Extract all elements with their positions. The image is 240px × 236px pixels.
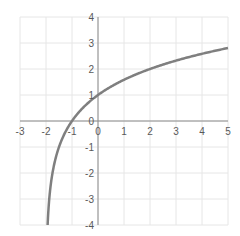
x-axis-tick-labels: -3-2-1012345: [16, 126, 232, 137]
y-tick-label: -4: [85, 220, 94, 231]
y-tick-label: -1: [85, 142, 94, 153]
x-tick-label: -1: [68, 126, 77, 137]
y-tick-label: 1: [88, 90, 94, 101]
y-tick-label: -3: [85, 194, 94, 205]
y-tick-label: 0: [88, 116, 94, 127]
x-tick-label: 2: [147, 126, 153, 137]
x-tick-label: 5: [225, 126, 231, 137]
x-tick-label: -3: [16, 126, 25, 137]
y-tick-label: 2: [88, 64, 94, 75]
x-tick-label: 4: [199, 126, 205, 137]
x-tick-label: 0: [95, 126, 101, 137]
x-tick-label: 3: [173, 126, 179, 137]
function-plot: -3-2-1012345 43210-1-2-3-4: [0, 0, 240, 236]
x-tick-label: -2: [42, 126, 51, 137]
x-tick-label: 1: [121, 126, 127, 137]
y-tick-label: -2: [85, 168, 94, 179]
y-tick-label: 3: [88, 38, 94, 49]
y-tick-label: 4: [88, 12, 94, 23]
